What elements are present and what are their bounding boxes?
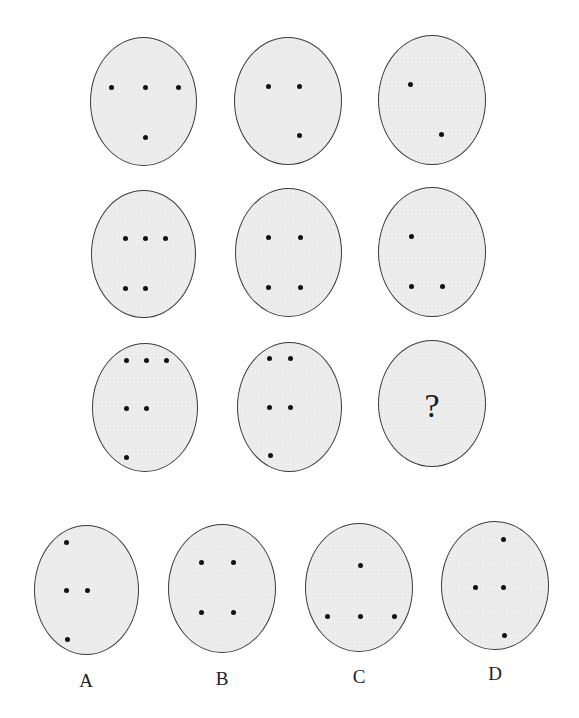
grid-cell-r2c2	[235, 188, 342, 317]
dot-icon	[298, 235, 303, 240]
dot-icon	[124, 455, 129, 460]
grid-cell-r2c3	[378, 187, 486, 317]
dot-icon	[298, 285, 303, 290]
dot-icon	[267, 405, 272, 410]
dot-icon	[409, 234, 414, 239]
grid-cell-r2c1	[91, 190, 196, 318]
dot-icon	[123, 236, 128, 241]
option-c[interactable]	[305, 523, 413, 652]
dot-icon	[164, 358, 169, 363]
dot-icon	[358, 614, 363, 619]
dot-icon	[199, 610, 204, 615]
dot-icon	[143, 85, 148, 90]
dot-icon	[392, 614, 397, 619]
dot-icon	[124, 358, 129, 363]
dot-icon	[199, 560, 204, 565]
dot-icon	[268, 453, 273, 458]
option-label-d[interactable]: D	[488, 664, 502, 683]
dot-icon	[143, 286, 148, 291]
dot-icon	[266, 84, 271, 89]
dot-icon	[267, 356, 272, 361]
dot-icon	[297, 133, 302, 138]
dot-icon	[124, 406, 129, 411]
option-b[interactable]	[168, 524, 276, 653]
dot-icon	[123, 286, 128, 291]
grid-cell-r1c2	[234, 37, 342, 165]
grid-cell-r1c1	[90, 37, 197, 166]
dot-icon	[64, 540, 69, 545]
dot-icon	[409, 284, 414, 289]
dot-icon	[439, 132, 444, 137]
option-d[interactable]	[441, 521, 549, 650]
dot-icon	[109, 85, 114, 90]
dot-icon	[65, 637, 70, 642]
dot-icon	[231, 560, 236, 565]
option-label-a[interactable]: A	[79, 671, 93, 690]
dot-icon	[143, 135, 148, 140]
dot-icon	[501, 537, 506, 542]
dot-icon	[288, 405, 293, 410]
dot-icon	[473, 585, 478, 590]
question-mark: ?	[424, 389, 439, 423]
dot-icon	[64, 588, 69, 593]
dot-icon	[143, 236, 148, 241]
dot-icon	[144, 358, 149, 363]
dot-icon	[163, 236, 168, 241]
dot-icon	[501, 585, 506, 590]
dot-icon	[176, 85, 181, 90]
grid-cell-r1c3	[378, 35, 486, 165]
dot-icon	[144, 406, 149, 411]
dot-icon	[266, 285, 271, 290]
dot-icon	[408, 82, 413, 87]
dot-icon	[266, 235, 271, 240]
dot-icon	[85, 588, 90, 593]
dot-icon	[288, 356, 293, 361]
dot-icon	[440, 284, 445, 289]
dot-icon	[325, 614, 330, 619]
option-label-c[interactable]: C	[353, 667, 366, 686]
dot-icon	[358, 563, 363, 568]
option-label-b[interactable]: B	[216, 669, 229, 688]
dot-icon	[502, 633, 507, 638]
dot-icon	[231, 610, 236, 615]
dot-icon	[297, 84, 302, 89]
